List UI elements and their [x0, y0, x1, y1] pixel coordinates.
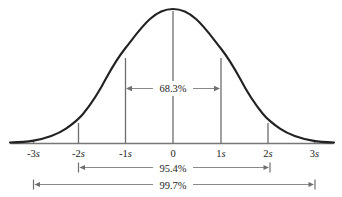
axis-tick-label-minus-1s: -1s: [119, 148, 132, 159]
one-sigma-label: 68.3%: [159, 83, 186, 94]
two-sigma-interval: 95.4%: [79, 160, 271, 175]
axis-tick-labels: -3s -2s -1s 0 1s 2s 3s: [27, 148, 319, 159]
three-sigma-right-arrowhead: [309, 182, 315, 187]
axis-tick-label-zero: 0: [170, 148, 175, 159]
bell-curve-path: [10, 9, 334, 143]
axis-tick-label-minus-3s: -3s: [27, 148, 40, 159]
two-sigma-label: 95.4%: [159, 163, 186, 174]
axis-tick-label-plus-2s: 2s: [263, 148, 272, 159]
three-sigma-interval: 99.7%: [34, 177, 316, 192]
three-sigma-left-arrowhead: [35, 182, 41, 187]
one-sigma-interval: 68.3%: [126, 81, 220, 96]
axis-tick-label-plus-1s: 1s: [216, 148, 225, 159]
two-sigma-right-arrowhead: [264, 165, 270, 170]
axis-tick-label-plus-3s: 3s: [310, 148, 319, 159]
axis-tick-label-minus-2s: -2s: [72, 148, 85, 159]
three-sigma-label: 99.7%: [159, 180, 186, 191]
one-sigma-left-arrowhead: [126, 86, 132, 91]
normal-distribution-figure: 68.3% -3s -2s -1s 0 1s 2s 3s 95.4%: [0, 0, 342, 197]
two-sigma-left-arrowhead: [80, 165, 86, 170]
one-sigma-right-arrowhead: [214, 86, 220, 91]
